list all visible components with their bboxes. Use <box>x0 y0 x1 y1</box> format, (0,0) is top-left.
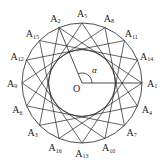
radius-oa2 <box>59 28 82 83</box>
point-label-a2: A2 <box>50 13 60 25</box>
star-polygon-diagram: α O A1A2A3A4A5A6A7A8A9A10A11A12A13A14A15… <box>0 0 164 166</box>
point-label-a13: A13 <box>75 148 88 160</box>
point-label-a1: A1 <box>147 78 157 90</box>
chord <box>27 60 82 143</box>
point-label-a10: A10 <box>102 142 115 154</box>
point-label-a12: A12 <box>11 51 24 63</box>
point-label-a15: A15 <box>26 28 39 40</box>
point-label-a9: A9 <box>7 78 17 90</box>
angle-label: α <box>92 65 97 75</box>
center-label: O <box>73 83 80 94</box>
point-label-a3: A3 <box>28 127 38 139</box>
point-label-a14: A14 <box>140 51 153 63</box>
point-label-a6: A6 <box>12 104 22 116</box>
point-label-a11: A11 <box>125 28 138 40</box>
point-label-a4: A4 <box>142 104 152 116</box>
point-label-a7: A7 <box>126 127 136 139</box>
point-label-a8: A8 <box>104 13 114 25</box>
point-label-a5: A5 <box>77 8 87 20</box>
point-label-a16: A16 <box>48 142 61 154</box>
